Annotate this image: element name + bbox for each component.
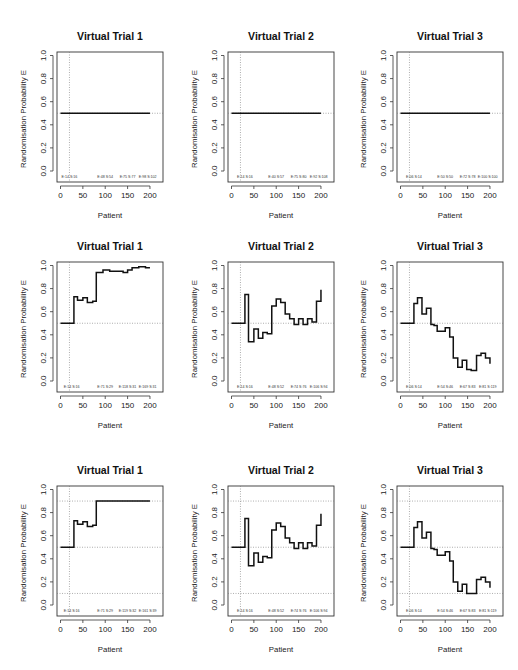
count-annotation: E:106 S:94: [310, 385, 328, 389]
x-tick-label: 100: [439, 191, 453, 200]
x-tick-label: 100: [270, 625, 284, 634]
x-axis-label: Patient: [269, 211, 294, 220]
y-axis-label: Randomisation Probability E: [19, 70, 28, 168]
y-tick-label: 0.2: [379, 576, 388, 588]
x-axis-label: Patient: [98, 421, 123, 430]
y-tick-label: 0.6: [210, 306, 219, 318]
y-tick-label: 1.0: [39, 49, 48, 61]
count-annotation: E:50 S:50: [437, 175, 453, 179]
x-tick-label: 50: [78, 401, 87, 410]
x-tick-label: 0: [398, 401, 403, 410]
y-tick-label: 0.8: [379, 506, 388, 518]
chart-title: Virtual Trial 2: [248, 30, 314, 42]
chart-title: Virtual Trial 2: [248, 240, 314, 252]
x-tick-label: 100: [270, 401, 284, 410]
count-annotation: E:100 S:100: [478, 175, 498, 179]
chart-panel: Virtual Trial 3E:06 S:14E:54 S:46E:67 S:…: [359, 240, 503, 430]
count-annotation: E:118 S:31: [119, 385, 137, 389]
count-annotation: E:54 S:46: [437, 385, 453, 389]
x-tick-label: 50: [78, 625, 87, 634]
count-annotation: E:71 S:29: [97, 385, 113, 389]
y-tick-label: 0.4: [39, 329, 48, 341]
y-tick-label: 0.2: [210, 352, 219, 364]
chart-title: Virtual Trial 1: [77, 464, 143, 476]
count-annotation: E:14 S:16: [237, 385, 253, 389]
y-tick-label: 0.2: [39, 142, 48, 154]
x-tick-label: 200: [314, 625, 328, 634]
count-annotation: E:92 S:108: [310, 175, 328, 179]
x-tick-label: 200: [143, 625, 157, 634]
y-axis-label: Randomisation Probability E: [190, 70, 199, 168]
y-tick-label: 1.0: [379, 483, 388, 495]
y-tick-label: 1.0: [210, 49, 219, 61]
y-tick-label: 0.0: [210, 165, 219, 177]
probability-series: [232, 290, 321, 342]
x-tick-label: 150: [461, 191, 475, 200]
y-axis-label: Randomisation Probability E: [190, 504, 199, 602]
plot-frame: [228, 486, 334, 616]
count-annotation: E:106 S:94: [310, 609, 328, 613]
y-tick-label: 0.0: [379, 165, 388, 177]
count-annotation: E:48 S:52: [268, 385, 284, 389]
y-tick-label: 0.0: [379, 599, 388, 611]
y-tick-label: 0.2: [39, 576, 48, 588]
x-tick-label: 200: [483, 191, 497, 200]
count-annotation: E:14 S:16: [237, 609, 253, 613]
chart-title: Virtual Trial 3: [417, 240, 483, 252]
y-tick-label: 0.8: [210, 282, 219, 294]
x-tick-label: 150: [121, 401, 135, 410]
y-tick-label: 1.0: [210, 259, 219, 271]
y-tick-label: 0.6: [379, 306, 388, 318]
y-axis-label: Randomisation Probability E: [359, 70, 368, 168]
y-tick-label: 0.8: [379, 282, 388, 294]
y-tick-label: 1.0: [39, 483, 48, 495]
y-tick-label: 1.0: [379, 259, 388, 271]
count-annotation: E:75 S:80: [291, 175, 307, 179]
y-tick-label: 0.4: [210, 119, 219, 131]
y-tick-label: 0.4: [39, 553, 48, 565]
x-tick-label: 0: [398, 191, 403, 200]
y-tick-label: 0.2: [39, 352, 48, 364]
y-tick-label: 0.4: [379, 329, 388, 341]
y-tick-label: 0.6: [39, 306, 48, 318]
x-tick-label: 0: [58, 401, 63, 410]
count-annotation: E:67 S:83: [460, 385, 476, 389]
y-axis-label: Randomisation Probability E: [19, 280, 28, 378]
x-tick-label: 0: [229, 625, 234, 634]
count-annotation: E:54 S:46: [437, 609, 453, 613]
x-tick-label: 100: [439, 401, 453, 410]
y-tick-label: 0.0: [210, 599, 219, 611]
count-annotation: E:98 S:102: [139, 175, 157, 179]
chart-panel: Virtual Trial 1E:14 S:16E:71 S:29E:119 S…: [19, 464, 163, 654]
x-tick-label: 50: [249, 625, 258, 634]
y-tick-label: 0.0: [39, 599, 48, 611]
x-axis-label: Patient: [98, 211, 123, 220]
x-tick-label: 200: [143, 401, 157, 410]
y-tick-label: 0.4: [210, 553, 219, 565]
y-tick-label: 0.0: [39, 165, 48, 177]
y-tick-label: 0.4: [39, 119, 48, 131]
chart-panel: Virtual Trial 2E:14 S:16E:48 S:52E:74 S:…: [190, 240, 334, 430]
count-annotation: E:48 S:52: [268, 609, 284, 613]
chart-panel: Virtual Trial 1E:14 S:16E:71 S:29E:118 S…: [19, 240, 163, 430]
count-annotation: E:40 S:57: [268, 175, 284, 179]
y-tick-label: 0.8: [39, 72, 48, 84]
count-annotation: E:169 S:31: [139, 385, 157, 389]
x-tick-label: 50: [78, 191, 87, 200]
x-tick-label: 200: [483, 625, 497, 634]
y-tick-label: 0.4: [379, 553, 388, 565]
y-tick-label: 0.0: [210, 375, 219, 387]
plot-frame: [57, 486, 163, 616]
x-tick-label: 100: [99, 625, 113, 634]
y-tick-label: 0.6: [210, 96, 219, 108]
y-tick-label: 0.0: [379, 375, 388, 387]
count-annotation: E:06 S:14: [406, 385, 422, 389]
plot-frame: [228, 262, 334, 392]
count-annotation: E:72 S:78: [460, 175, 476, 179]
y-tick-label: 0.4: [210, 329, 219, 341]
y-axis-label: Randomisation Probability E: [190, 280, 199, 378]
probability-series: [61, 267, 150, 324]
x-tick-label: 0: [58, 625, 63, 634]
x-axis-label: Patient: [269, 421, 294, 430]
count-annotation: E:06 S:14: [406, 175, 422, 179]
